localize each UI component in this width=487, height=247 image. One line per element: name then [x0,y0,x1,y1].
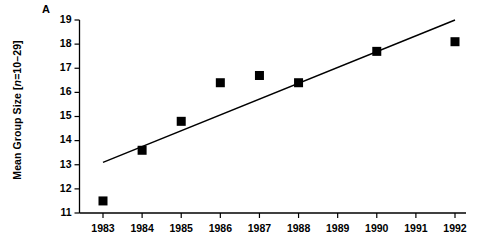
y-tick-label: 14 [60,133,72,145]
scatter-plot: 111213141516171819 198319841985198619871… [0,0,487,247]
y-tick-label: 18 [60,37,72,49]
y-axis: 111213141516171819 [60,13,80,218]
chart-figure: A Mean Group Size [n=10–29] 111213141516… [0,0,487,247]
x-tick-label: 1988 [287,222,311,234]
data-point-markers [99,37,460,205]
y-tick-label: 12 [60,182,72,194]
data-point-marker [255,71,264,80]
y-tick-label: 11 [60,206,71,218]
y-tick-label: 15 [60,109,72,121]
x-tick-label: 1992 [443,222,467,234]
x-tick-label: 1984 [130,222,154,234]
x-tick-label: 1991 [404,222,428,234]
trend-line [103,20,455,162]
x-tick-label: 1989 [326,222,350,234]
data-point-marker [372,47,381,56]
data-point-marker [216,78,225,87]
data-point-marker [451,37,460,46]
data-point-marker [99,196,108,205]
x-tick-marks [103,213,455,218]
y-tick-label: 13 [60,158,72,170]
y-tick-marks [75,20,80,213]
y-tick-labels: 111213141516171819 [60,13,72,218]
x-tick-label: 1985 [170,222,194,234]
x-tick-labels: 1983198419851986198719881989199019911992 [91,222,467,234]
x-tick-label: 1990 [365,222,389,234]
x-axis: 1983198419851986198719881989199019911992 [80,213,467,234]
x-tick-label: 1987 [248,222,272,234]
data-point-marker [294,78,303,87]
x-tick-label: 1983 [91,222,115,234]
data-point-marker [138,146,147,155]
x-tick-label: 1986 [209,222,233,234]
y-tick-label: 17 [60,61,72,73]
y-tick-label: 16 [60,85,72,97]
data-point-marker [177,117,186,126]
y-tick-label: 19 [60,13,72,25]
